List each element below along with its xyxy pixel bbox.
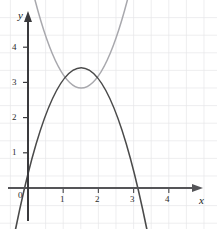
- y-tick-label-2: 2: [12, 113, 17, 122]
- x-tick-label-3: 3: [130, 195, 135, 204]
- downward-parabola-curve: [16, 68, 147, 229]
- origin-label: 0: [18, 191, 23, 200]
- x-axis: [8, 184, 203, 192]
- y-axis-label: y: [18, 10, 23, 21]
- x-tick-label-2: 2: [95, 195, 100, 204]
- x-tick-label-4: 4: [165, 195, 170, 204]
- y-tick-label-4: 4: [12, 43, 17, 52]
- parabola-plot: 4 3 2 1 0 1 2 3 4 y x: [0, 0, 217, 229]
- y-tick-label-1: 1: [12, 148, 17, 157]
- y-tick-label-3: 3: [12, 78, 17, 87]
- grid-lines: [0, 0, 217, 229]
- x-axis-label: x: [199, 195, 204, 206]
- y-axis: [24, 11, 32, 221]
- plot-canvas: [0, 0, 217, 229]
- upward-parabola-curve: [35, 0, 127, 88]
- x-tick-label-1: 1: [60, 195, 65, 204]
